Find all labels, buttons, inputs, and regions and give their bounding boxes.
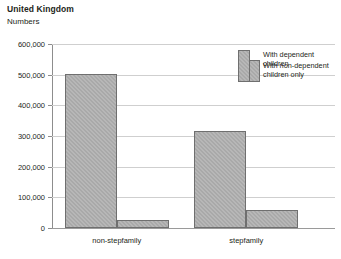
y-axis-tick-label: 300,000 (18, 132, 45, 141)
chart-legend: With dependent children With non-depende… (238, 50, 341, 86)
x-axis-category-label: stepfamily (229, 236, 263, 245)
x-axis-category-label: non-stepfamily (92, 236, 141, 245)
bar (246, 210, 298, 228)
bar-chart: United Kingdom Numbers 0100,000200,00030… (0, 0, 341, 259)
legend-swatch-with-non-dependent-children-only (249, 60, 260, 82)
bar (117, 220, 169, 228)
y-axis-tick-label: 500,000 (18, 70, 45, 79)
bar (194, 131, 246, 228)
y-axis-tick-label: 600,000 (18, 40, 45, 49)
chart-title: United Kingdom (7, 4, 74, 14)
y-axis-tick-label: 0 (41, 224, 45, 233)
chart-subtitle: Numbers (7, 17, 39, 26)
gridline (52, 228, 335, 229)
y-axis-tick-label: 200,000 (18, 162, 45, 171)
bar (65, 74, 117, 228)
y-axis-tick-label: 400,000 (18, 101, 45, 110)
y-axis-tick-label: 100,000 (18, 193, 45, 202)
legend-label-with-non-dependent-children-only: With non-dependent children only (263, 61, 341, 79)
legend-swatches (238, 50, 260, 82)
gridline (52, 44, 335, 45)
